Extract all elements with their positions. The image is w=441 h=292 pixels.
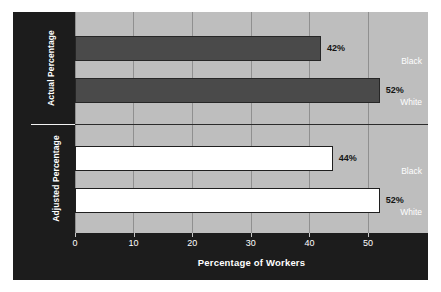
section-label-adjusted-percentage: Adjusted Percentage bbox=[13, 124, 75, 233]
bar-value-actual-black: 42% bbox=[327, 43, 345, 53]
x-tick-mark-30 bbox=[251, 233, 252, 237]
bar-value-adjusted-white: 52% bbox=[386, 195, 404, 205]
x-axis-title: Percentage of Workers bbox=[75, 257, 428, 268]
bar-actual-black bbox=[75, 36, 321, 61]
x-tick-mark-0 bbox=[75, 233, 76, 237]
section-label-actual-text: Actual Percentage bbox=[0, 30, 107, 106]
bar-actual-white bbox=[75, 78, 380, 103]
x-axis-footer: 01020304050 Percentage of Workers bbox=[13, 233, 428, 280]
category-label-actual-black: Black bbox=[401, 56, 422, 66]
category-label-adjusted-white: White bbox=[400, 207, 422, 217]
bar-adjusted-white bbox=[75, 188, 380, 213]
bar-value-actual-white: 52% bbox=[386, 85, 404, 95]
x-tick-mark-20 bbox=[192, 233, 193, 237]
x-tick-label-0: 0 bbox=[63, 238, 87, 248]
section-label-actual-percentage: Actual Percentage bbox=[13, 12, 75, 124]
section-label-adjusted-text: Adjusted Percentage bbox=[2, 135, 111, 221]
panel-section-divider bbox=[31, 124, 75, 125]
plot-area: 42% 52% 44% 52% bbox=[75, 12, 428, 233]
group-divider-line bbox=[75, 124, 428, 125]
category-label-actual-white: White bbox=[400, 97, 422, 107]
x-tick-label-50: 50 bbox=[356, 238, 380, 248]
x-tick-label-30: 30 bbox=[239, 238, 263, 248]
x-tick-mark-10 bbox=[134, 233, 135, 237]
x-tick-label-10: 10 bbox=[122, 238, 146, 248]
x-tick-mark-40 bbox=[309, 233, 310, 237]
x-tick-label-40: 40 bbox=[297, 238, 321, 248]
x-tick-label-20: 20 bbox=[180, 238, 204, 248]
chart-figure: Actual Percentage Adjusted Percentage Bl… bbox=[13, 12, 428, 280]
bar-adjusted-black bbox=[75, 146, 333, 171]
bar-value-adjusted-black: 44% bbox=[339, 153, 357, 163]
category-label-panel: Actual Percentage Adjusted Percentage bbox=[13, 12, 75, 233]
category-label-adjusted-black: Black bbox=[401, 166, 422, 176]
x-tick-mark-50 bbox=[368, 233, 369, 237]
